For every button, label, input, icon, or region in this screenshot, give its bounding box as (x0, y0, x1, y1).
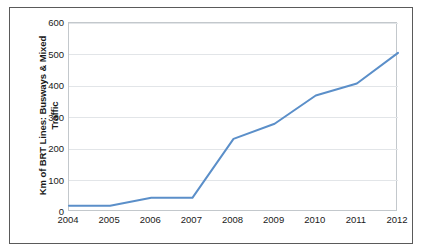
y-axis-tick-label: 400 (48, 80, 64, 91)
x-axis-tick-label: 2010 (304, 214, 325, 225)
x-axis-tick-label: 2006 (140, 214, 161, 225)
series-line-chart (68, 22, 399, 213)
gridlines (69, 23, 398, 181)
y-axis-tick-label: 100 (48, 174, 64, 185)
plot-area (68, 22, 397, 211)
x-axis-tick-label: 2009 (263, 214, 284, 225)
x-axis-tick-label: 2008 (222, 214, 243, 225)
x-axis-tick-label: 2012 (386, 214, 407, 225)
x-axis-tick-label: 2007 (181, 214, 202, 225)
x-axis-tick-labels: 200420052006200720082009201020112012 (68, 214, 397, 230)
y-axis-tick-label: 600 (48, 17, 64, 28)
x-axis-tick-label: 2011 (346, 214, 366, 225)
x-axis-tick-label: 2005 (99, 214, 120, 225)
y-axis-tick-label: 200 (48, 143, 64, 154)
chart-figure: Km of BRT Lines: Busways & Mixed Traffic… (0, 0, 421, 252)
y-axis-tick-label: 300 (48, 111, 64, 122)
data-series-group (69, 53, 398, 206)
y-axis-tick-label: 500 (48, 48, 64, 59)
series-line (69, 53, 398, 206)
x-axis-tick-label: 2004 (57, 214, 78, 225)
y-axis-tick-labels: 0100200300400500600 (36, 22, 64, 211)
